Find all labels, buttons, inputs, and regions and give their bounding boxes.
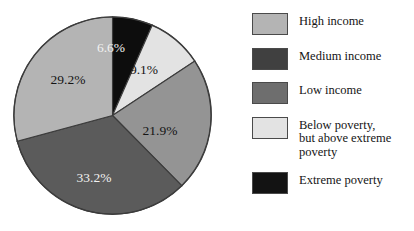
chart-legend: High incomeMedium incomeLow incomeBelow … bbox=[252, 12, 414, 205]
legend-swatch-icon-0 bbox=[252, 13, 288, 35]
pie-chart-svg: 6.6%9.1%21.9%33.2%29.2% bbox=[13, 16, 212, 215]
legend-swatch-icon-2 bbox=[252, 82, 288, 104]
legend-item-0[interactable]: High income bbox=[252, 12, 414, 35]
legend-swatch-icon-4 bbox=[252, 172, 288, 194]
legend-swatch-icon-3 bbox=[252, 117, 288, 139]
pie-chart-figure: 6.6%9.1%21.9%33.2%29.2% High incomeMediu… bbox=[0, 0, 414, 231]
pie-data-label-below-poverty: 9.1% bbox=[130, 62, 158, 77]
legend-item-2[interactable]: Low income bbox=[252, 81, 414, 104]
legend-label-2: Low income bbox=[299, 81, 362, 98]
pie-data-label-extreme-poverty: 6.6% bbox=[97, 40, 125, 55]
pie-data-label-high-income: 29.2% bbox=[51, 72, 86, 87]
legend-label-1: Medium income bbox=[299, 47, 381, 64]
legend-label-4: Extreme poverty bbox=[299, 171, 383, 188]
legend-label-3: Below poverty, but above extreme poverty bbox=[299, 116, 414, 160]
pie-chart-plot-area: 6.6%9.1%21.9%33.2%29.2% bbox=[13, 16, 212, 215]
legend-label-0: High income bbox=[299, 12, 364, 29]
pie-data-label-medium-income: 33.2% bbox=[77, 170, 112, 185]
legend-item-1[interactable]: Medium income bbox=[252, 47, 414, 70]
legend-item-3[interactable]: Below poverty, but above extreme poverty bbox=[252, 116, 414, 160]
legend-swatch-icon-1 bbox=[252, 48, 288, 70]
pie-data-label-low-income: 21.9% bbox=[143, 123, 178, 138]
legend-item-4[interactable]: Extreme poverty bbox=[252, 171, 414, 194]
